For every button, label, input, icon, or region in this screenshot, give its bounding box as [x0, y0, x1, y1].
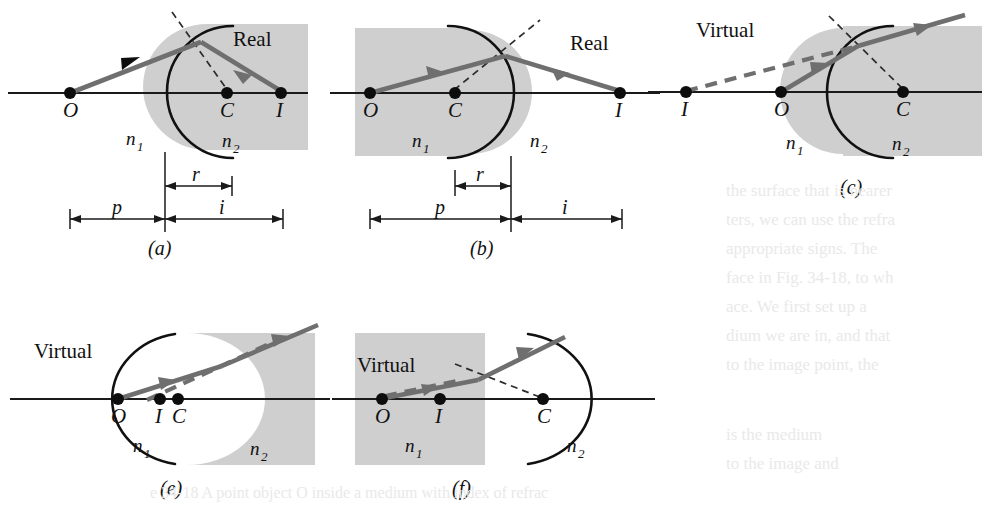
svg-text:n: n	[126, 128, 136, 149]
panel-a-label-I: I	[275, 98, 284, 122]
panel-f-refracted-ray	[478, 337, 565, 380]
panel-b-label-r: r	[476, 163, 484, 185]
svg-text:1: 1	[416, 446, 423, 461]
panel-c-image-type-label: Virtual	[696, 18, 754, 42]
panel-a-dimension-r: r	[165, 163, 232, 196]
svg-text:2: 2	[261, 449, 268, 464]
svg-text:n: n	[892, 133, 902, 154]
panel-e-label-O: O	[111, 404, 126, 428]
svg-text:2: 2	[541, 141, 548, 156]
panel-b-dimension-p: p	[370, 196, 511, 229]
panel-b-label-i: i	[562, 196, 568, 218]
svg-text:1: 1	[144, 446, 151, 461]
panel-c-label-I: I	[680, 97, 689, 121]
panel-c-label-C: C	[896, 97, 911, 121]
panel-f: O I C Virtual n 1 n 2 (f)	[332, 333, 655, 500]
svg-text:2: 2	[233, 141, 240, 156]
panel-c-letter: (c)	[840, 176, 863, 199]
panel-a-label-i: i	[219, 196, 225, 218]
panel-f-label-n2: n 2	[567, 435, 585, 461]
panel-b-label-n2: n 2	[530, 130, 548, 156]
panel-b-refracted-arrowhead	[551, 68, 570, 81]
svg-text:1: 1	[797, 143, 804, 158]
panel-f-image-type-label: Virtual	[357, 353, 415, 377]
svg-text:1: 1	[137, 139, 144, 154]
panel-c: I O C Virtual n 1 n 2 (c)	[648, 15, 982, 199]
panel-e-letter: (e)	[160, 477, 183, 500]
panel-a-image-type-label: Real	[233, 27, 272, 51]
panel-b-image-type-label: Real	[570, 31, 609, 55]
svg-text:n: n	[412, 130, 422, 151]
panel-b-label-O: O	[363, 98, 378, 122]
panel-a-label-C: C	[220, 98, 235, 122]
panel-b: O C I Real n 1 n 2 r	[330, 20, 660, 260]
panel-c-label-O: O	[774, 97, 789, 121]
panel-a-dimension-p: p	[70, 196, 165, 229]
panel-a-label-n1: n 1	[126, 128, 144, 154]
svg-text:n: n	[222, 130, 232, 151]
panel-a-label-r: r	[192, 163, 200, 185]
panel-a: O C I Real n 1 n 2 r	[8, 12, 308, 260]
panel-f-label-C: C	[537, 404, 552, 428]
panel-a-label-p: p	[110, 196, 122, 219]
panel-a-label-O: O	[63, 98, 78, 122]
svg-text:n: n	[530, 130, 540, 151]
panel-b-label-I: I	[614, 98, 623, 122]
panel-e-image-type-label: Virtual	[34, 339, 92, 363]
svg-text:n: n	[133, 435, 143, 456]
panel-e-label-n1: n 1	[133, 435, 151, 461]
panel-e-label-C: C	[172, 404, 187, 428]
panel-e: O I C Virtual n 1 n 2 (e)	[10, 325, 330, 500]
panel-a-dimension-i: i	[165, 196, 283, 229]
svg-text:n: n	[567, 435, 577, 456]
panel-e-label-I: I	[154, 404, 163, 428]
panel-b-label-p: p	[433, 196, 445, 219]
svg-text:2: 2	[578, 446, 585, 461]
panel-b-letter: (b)	[470, 237, 494, 260]
panel-b-dimension-r: r	[455, 163, 511, 190]
panel-b-label-C: C	[448, 98, 463, 122]
panel-f-label-O: O	[375, 404, 390, 428]
figure-root: the surface that is nearer ters, we can …	[0, 0, 982, 521]
panel-a-letter: (a)	[148, 237, 172, 260]
panel-f-label-I: I	[434, 404, 443, 428]
panel-b-dimension-i: i	[511, 196, 622, 229]
svg-text:n: n	[405, 435, 415, 456]
svg-text:n: n	[786, 132, 796, 153]
panel-f-letter: (f)	[452, 477, 471, 500]
svg-text:n: n	[250, 438, 260, 459]
figure-svg: O C I Real n 1 n 2 r	[0, 0, 982, 521]
svg-text:2: 2	[903, 144, 910, 159]
svg-text:1: 1	[423, 141, 430, 156]
